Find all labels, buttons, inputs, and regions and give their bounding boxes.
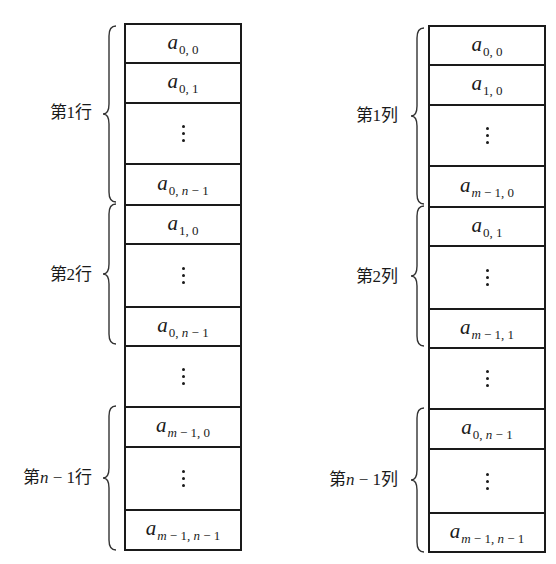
vertical-ellipsis-icon xyxy=(486,267,489,288)
vertical-ellipsis-icon xyxy=(486,125,489,146)
cell-vdots xyxy=(126,448,240,511)
cell-a-m-1-0: am − 1, 0 xyxy=(126,408,240,448)
row-major-table: a0, 0 a0, 1 a0, n − 1 a1, 0 a0, n − 1 am… xyxy=(124,23,242,551)
cell-a-0-n-1: a0, n − 1 xyxy=(430,410,544,450)
column-major-table: a0, 0 a1, 0 am − 1, 0 a0, 1 am − 1, 1 a0… xyxy=(428,25,546,553)
left-brace-icon xyxy=(98,202,118,346)
cell-a-0-1: a0, 1 xyxy=(126,64,240,104)
group-label-row-n-1: 第n − 1行 xyxy=(23,469,92,486)
cell-a-0-0: a0, 0 xyxy=(430,27,544,66)
left-brace-icon xyxy=(98,404,118,552)
cell-a-1-0: a1, 0 xyxy=(126,206,240,245)
cell-a-m-1-0: am − 1, 0 xyxy=(430,167,544,208)
vertical-ellipsis-icon xyxy=(486,471,489,492)
vertical-ellipsis-icon xyxy=(182,468,185,489)
cell-a-0-n-1: a0, n − 1 xyxy=(126,308,240,347)
cell-vdots xyxy=(126,245,240,308)
left-brace-icon xyxy=(406,26,426,206)
vertical-ellipsis-icon xyxy=(182,265,185,286)
group-label-col-n-1: 第n − 1列 xyxy=(329,471,398,488)
vertical-ellipsis-icon xyxy=(486,368,489,389)
cell-a-0-n-1: a0, n − 1 xyxy=(126,165,240,206)
left-brace-icon xyxy=(98,24,118,204)
vertical-ellipsis-icon xyxy=(182,123,185,144)
vertical-ellipsis-icon xyxy=(182,366,185,387)
cell-vdots xyxy=(430,349,544,410)
cell-a-m-1-n-1: am − 1, n − 1 xyxy=(126,511,240,549)
cell-a-m-1-1: am − 1, 1 xyxy=(430,310,544,349)
group-label-col-1: 第1列 xyxy=(356,107,399,124)
cell-a-m-1-n-1: am − 1, n − 1 xyxy=(430,514,544,551)
cell-vdots xyxy=(430,247,544,310)
left-brace-icon xyxy=(406,204,426,348)
cell-vdots xyxy=(126,347,240,408)
cell-a-0-0: a0, 0 xyxy=(126,25,240,64)
cell-a-1-0: a1, 0 xyxy=(430,66,544,106)
group-label-col-2: 第2列 xyxy=(356,268,399,285)
group-label-row-1: 第1行 xyxy=(50,104,93,121)
cell-vdots xyxy=(126,104,240,165)
left-brace-icon xyxy=(406,406,426,554)
cell-vdots xyxy=(430,450,544,514)
cell-vdots xyxy=(430,106,544,167)
cell-a-0-1: a0, 1 xyxy=(430,208,544,247)
group-label-row-2: 第2行 xyxy=(50,266,93,283)
